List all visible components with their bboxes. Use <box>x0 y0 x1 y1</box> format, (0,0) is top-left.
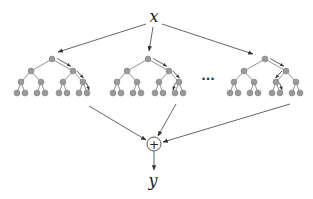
tree-node <box>110 90 116 96</box>
tree-node <box>38 79 44 85</box>
sum-aggregator: + <box>147 137 161 152</box>
tree-node <box>176 79 182 85</box>
tree-node <box>166 68 172 74</box>
tree-node <box>251 79 257 85</box>
tree-node <box>64 90 70 96</box>
decision-path-arrow <box>57 59 70 67</box>
output-label-y: y <box>147 171 158 190</box>
tree-node <box>255 90 261 96</box>
tree-node <box>80 79 86 85</box>
tree-node <box>138 90 144 96</box>
decision-path-arrow <box>87 83 90 90</box>
tree-node <box>130 90 136 96</box>
tree-node <box>60 79 66 85</box>
tree-node <box>28 68 34 74</box>
ellipsis: ··· <box>201 72 215 86</box>
tree-node <box>273 79 279 85</box>
input-arrows <box>58 24 253 54</box>
tree-node <box>172 90 178 96</box>
tree-node <box>247 90 253 96</box>
tree-node <box>56 90 62 96</box>
tree-node <box>269 90 275 96</box>
tree-node <box>118 90 124 96</box>
tree-node <box>70 68 76 74</box>
tree-node <box>180 90 186 96</box>
tree-1 <box>14 56 90 96</box>
tree-node <box>49 56 55 62</box>
tree-node <box>18 79 24 85</box>
tree-node <box>124 68 130 74</box>
tree-2 <box>110 56 186 96</box>
trees-group <box>14 56 303 96</box>
input-label-x: x <box>149 7 158 26</box>
decision-path-arrow <box>173 83 176 90</box>
tree-node <box>227 90 233 96</box>
tree-node <box>145 56 151 62</box>
plus-icon: + <box>149 138 159 152</box>
tree-node <box>84 90 90 96</box>
tree-node <box>14 90 20 96</box>
tree-node <box>22 90 28 96</box>
tree-node <box>293 79 299 85</box>
output-arrows <box>89 104 290 142</box>
tree-node <box>134 79 140 85</box>
tree-3 <box>227 56 303 96</box>
tree-node <box>42 90 48 96</box>
tree-node <box>289 90 295 96</box>
decision-path-arrow <box>270 59 283 67</box>
ensemble-diagram: x ··· + y <box>0 0 313 199</box>
tree-node <box>76 90 82 96</box>
tree-node <box>262 56 268 62</box>
tree-node <box>114 79 120 85</box>
tree-node <box>297 90 303 96</box>
tree-node <box>283 68 289 74</box>
tree-node <box>235 90 241 96</box>
tree-node <box>160 90 166 96</box>
tree-node <box>34 90 40 96</box>
tree-node <box>231 79 237 85</box>
tree-node <box>156 79 162 85</box>
decision-path-arrow <box>280 83 283 90</box>
tree-node <box>241 68 247 74</box>
tree-node <box>277 90 283 96</box>
decision-path-arrow <box>153 59 166 67</box>
tree-node <box>152 90 158 96</box>
